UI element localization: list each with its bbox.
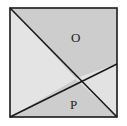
label-o: O [71, 30, 80, 45]
geometry-diagram: O P [0, 0, 127, 126]
label-p: P [70, 97, 77, 112]
